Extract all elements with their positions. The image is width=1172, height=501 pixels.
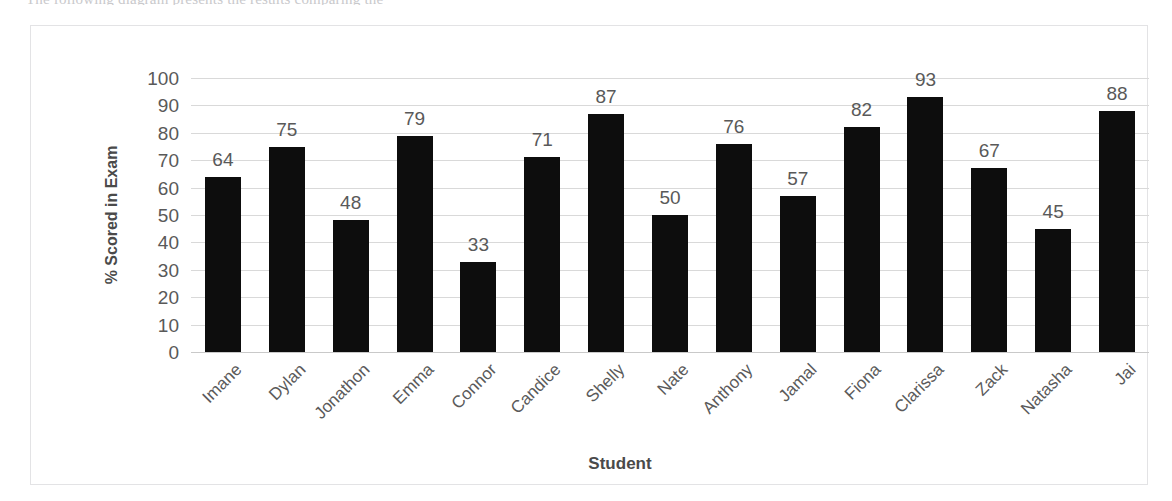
y-axis-tick-label: 30 — [117, 260, 179, 279]
bar[interactable] — [652, 215, 688, 352]
gridline — [191, 78, 1149, 79]
bar-value-label: 79 — [404, 109, 425, 128]
y-axis-tick-label: 10 — [117, 315, 179, 334]
bar-value-label: 76 — [723, 117, 744, 136]
y-axis-tick-label: 20 — [117, 288, 179, 307]
chart-container: % Scored in Exam 0102030405060708090100 … — [30, 25, 1148, 485]
bar-value-label: 71 — [532, 130, 553, 149]
y-axis-tick-label: 70 — [117, 151, 179, 170]
bar[interactable] — [907, 97, 943, 352]
x-axis-title: Student — [61, 454, 1172, 474]
y-axis-tick-labels: 0102030405060708090100 — [117, 78, 179, 352]
gridline — [191, 133, 1149, 134]
bar-value-label: 67 — [979, 141, 1000, 160]
y-axis-tick-label: 80 — [117, 123, 179, 142]
bar-value-label: 33 — [468, 235, 489, 254]
gridline — [191, 160, 1149, 161]
y-axis-tick-label: 0 — [117, 343, 179, 362]
y-axis-tick-label: 100 — [117, 69, 179, 88]
bar[interactable] — [844, 127, 880, 352]
bar[interactable] — [205, 177, 241, 352]
page-cutoff-text: The following diagram presents the resul… — [26, 0, 746, 5]
bar-value-label: 93 — [915, 70, 936, 89]
gridline — [191, 105, 1149, 106]
y-axis-tick-label: 50 — [117, 206, 179, 225]
bar-value-label: 88 — [1106, 84, 1127, 103]
bar[interactable] — [1035, 229, 1071, 352]
bar-value-label: 64 — [212, 150, 233, 169]
y-axis-tick-label: 90 — [117, 96, 179, 115]
bar[interactable] — [269, 147, 305, 353]
bar-value-label: 82 — [851, 100, 872, 119]
bar[interactable] — [716, 144, 752, 352]
bar-value-label: 50 — [659, 188, 680, 207]
bar-value-label: 48 — [340, 193, 361, 212]
bar[interactable] — [333, 220, 369, 352]
bar-value-label: 45 — [1043, 202, 1064, 221]
y-axis-tick-label: 60 — [117, 178, 179, 197]
bar-value-label: 87 — [596, 87, 617, 106]
x-axis-tick-labels: ImaneDylanJonathonEmmaConnorCandiceShell… — [191, 356, 1149, 446]
y-axis-tick-label: 40 — [117, 233, 179, 252]
bar-value-label: 57 — [787, 169, 808, 188]
plot-area: 647548793371875076578293674588 — [191, 78, 1149, 352]
bar-value-label: 75 — [276, 120, 297, 139]
